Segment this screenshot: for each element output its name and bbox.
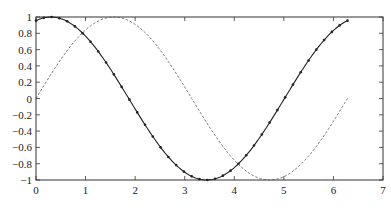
y-tick-label: −0.2 [12, 109, 32, 121]
data-point-marker [222, 174, 225, 177]
data-point-marker [105, 61, 108, 64]
y-tick-label: 0.8 [18, 27, 32, 39]
y-tick-label: 0.6 [18, 44, 32, 56]
data-point-marker [245, 154, 248, 157]
data-point-marker [97, 50, 100, 53]
y-tick-label: 0 [27, 93, 33, 105]
x-tick-label: 7 [380, 184, 386, 196]
dashed-series-line [36, 17, 347, 180]
series-group [35, 16, 349, 182]
y-tick-label: −0.4 [12, 125, 32, 137]
x-tick-label: 3 [182, 184, 188, 196]
x-tick-label: 4 [232, 184, 238, 196]
x-tick-label: 1 [83, 184, 89, 196]
x-tick-label: 6 [331, 184, 337, 196]
data-point-marker [214, 178, 217, 181]
data-point-marker [338, 24, 341, 27]
x-tick-label: 2 [132, 184, 138, 196]
plot-area [36, 17, 383, 180]
y-tick-label: 0.4 [18, 60, 32, 72]
data-point-marker [159, 146, 162, 149]
data-point-marker [183, 170, 186, 173]
data-point-marker [167, 156, 170, 159]
data-point-marker [229, 169, 232, 172]
data-point-marker [151, 135, 154, 138]
data-point-marker [74, 25, 77, 28]
data-point-marker [323, 39, 326, 42]
data-point-marker [89, 40, 92, 43]
data-point-marker [346, 19, 349, 22]
tick-labels: 0123456710.80.60.40.20−0.2−0.4−0.6−0.8−1 [12, 11, 386, 196]
data-point-marker [66, 20, 69, 23]
data-point-marker [136, 111, 139, 114]
data-point-marker [284, 96, 287, 99]
data-point-marker [128, 98, 131, 101]
data-point-marker [253, 144, 256, 147]
data-point-marker [190, 175, 193, 178]
data-point-marker [35, 19, 38, 22]
data-point-marker [331, 31, 334, 34]
y-tick-label: −1 [20, 174, 32, 186]
data-point-marker [198, 178, 201, 181]
data-point-marker [276, 109, 279, 112]
y-tick-label: 1 [27, 11, 33, 23]
data-point-marker [120, 86, 123, 89]
data-point-marker [175, 164, 178, 167]
data-point-marker [299, 71, 302, 74]
y-tick-label: −0.8 [12, 158, 32, 170]
axes-box [36, 17, 383, 180]
data-point-marker [261, 133, 264, 136]
data-point-marker [268, 121, 271, 124]
data-point-marker [113, 73, 116, 76]
data-point-marker [144, 123, 147, 126]
data-point-marker [307, 59, 310, 62]
data-point-marker [50, 16, 53, 19]
axis-ticks [36, 17, 383, 180]
data-point-marker [292, 83, 295, 86]
y-tick-label: −0.6 [12, 141, 32, 153]
x-tick-label: 0 [33, 184, 39, 196]
data-point-marker [206, 179, 209, 182]
x-tick-label: 5 [281, 184, 287, 196]
data-point-marker [58, 17, 61, 20]
y-tick-label: 0.2 [18, 76, 32, 88]
data-point-marker [42, 17, 45, 20]
data-point-marker [315, 48, 318, 51]
line-chart: 0123456710.80.60.40.20−0.2−0.4−0.6−0.8−1 [0, 0, 391, 212]
